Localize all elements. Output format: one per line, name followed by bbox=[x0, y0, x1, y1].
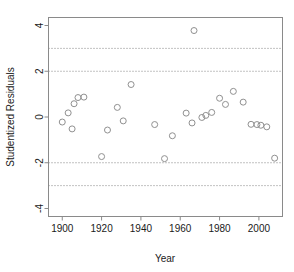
data-point bbox=[189, 120, 195, 126]
data-point bbox=[191, 28, 197, 34]
data-point bbox=[59, 119, 65, 125]
data-point bbox=[248, 121, 254, 127]
data-point bbox=[222, 101, 228, 107]
data-point bbox=[217, 95, 223, 101]
x-axis-title: Year bbox=[155, 253, 176, 264]
residuals-plot: 420-2-4 190019201940196019802000 Year St… bbox=[0, 0, 294, 272]
data-point bbox=[128, 82, 134, 88]
data-point bbox=[69, 126, 75, 132]
x-tick-label: 1900 bbox=[51, 223, 74, 234]
scatter-plot-canvas: 420-2-4 190019201940196019802000 Year St… bbox=[0, 0, 294, 272]
data-point bbox=[264, 124, 270, 130]
data-points-group bbox=[59, 28, 277, 162]
x-tick-label: 1920 bbox=[90, 223, 113, 234]
data-point bbox=[104, 127, 110, 133]
data-point bbox=[114, 104, 120, 110]
y-tick-label: 2 bbox=[34, 68, 45, 74]
x-tick-label: 1940 bbox=[130, 223, 153, 234]
x-axis-ticks: 190019201940196019802000 bbox=[51, 217, 270, 234]
y-axis-title: Studentized Residuals bbox=[5, 67, 16, 167]
y-tick-label: -2 bbox=[34, 158, 45, 167]
data-point bbox=[65, 110, 71, 116]
x-tick-label: 1960 bbox=[169, 223, 192, 234]
data-point bbox=[272, 155, 278, 161]
data-point bbox=[240, 99, 246, 105]
data-point bbox=[183, 110, 189, 116]
data-point bbox=[120, 118, 126, 124]
y-tick-label: 4 bbox=[34, 22, 45, 28]
data-point bbox=[75, 95, 81, 101]
y-tick-label: -4 bbox=[34, 204, 45, 213]
data-point bbox=[169, 133, 175, 139]
y-tick-label: 0 bbox=[34, 114, 45, 120]
data-point bbox=[99, 154, 105, 160]
data-point bbox=[152, 122, 158, 128]
x-tick-label: 1980 bbox=[208, 223, 231, 234]
data-point bbox=[258, 122, 264, 128]
y-axis-ticks: 420-2-4 bbox=[34, 22, 49, 213]
data-point bbox=[162, 156, 168, 162]
x-tick-label: 2000 bbox=[248, 223, 271, 234]
data-point bbox=[81, 94, 87, 100]
data-point bbox=[230, 88, 236, 94]
reference-lines-group bbox=[49, 48, 283, 185]
plot-frame bbox=[49, 18, 283, 217]
data-point bbox=[71, 101, 77, 107]
data-point bbox=[209, 109, 215, 115]
